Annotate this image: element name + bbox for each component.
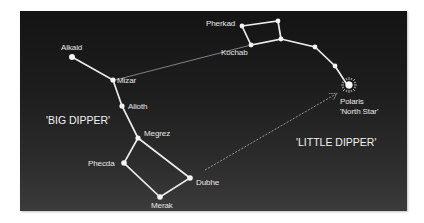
big-dipper-title: 'BIG DIPPER' (46, 114, 110, 126)
star-little-dipper-handle-2 (333, 64, 338, 69)
star-merak (157, 194, 163, 200)
label-kochab: Kochab (221, 48, 248, 57)
label-merak: Merak (151, 201, 173, 210)
pointer-arrow-line (205, 94, 336, 170)
little-dipper-title: 'LITTLE DIPPER' (296, 136, 376, 148)
star-phecda (121, 160, 127, 166)
label-alioth: Alioth (128, 102, 147, 111)
label-mizar: Mizar (117, 76, 136, 85)
label-dubhe: Dubhe (196, 178, 219, 187)
star-megrez (135, 135, 140, 140)
label-alkaid: Alkaid (61, 43, 82, 52)
star-mizar (110, 77, 115, 82)
label-pherkad: Pherkad (206, 19, 235, 28)
star-dubhe (187, 175, 193, 181)
star-little-dipper-handle-1 (313, 45, 318, 50)
star-chart: Alkaid Mizar Alioth Megrez Phecda Merak … (0, 0, 424, 223)
star-little-dipper-bowl-top (276, 19, 281, 24)
star-little-dipper-bowl-bottom (279, 37, 284, 42)
label-polaris: Polaris (340, 97, 364, 106)
little-dipper-lines (242, 21, 348, 86)
star-pherkad (240, 24, 245, 29)
star-kochab (249, 43, 254, 48)
label-north-star: 'North Star' (340, 107, 378, 116)
label-phecda: Phecda (88, 159, 115, 168)
star-alioth (119, 103, 124, 108)
star-alkaid (69, 54, 75, 60)
label-megrez: Megrez (144, 129, 170, 138)
polaris-starburst-icon (341, 77, 357, 93)
